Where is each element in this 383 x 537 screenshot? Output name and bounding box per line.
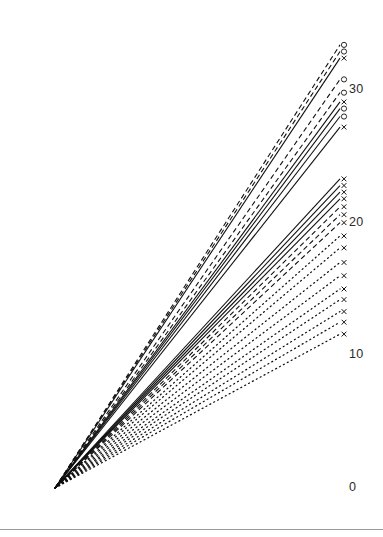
series-endpoint-x-marker bbox=[342, 260, 347, 265]
series-endpoint-x-marker bbox=[342, 183, 347, 188]
marker-layer bbox=[341, 42, 346, 336]
series-line bbox=[55, 186, 340, 488]
series-line bbox=[55, 199, 340, 488]
series-line bbox=[55, 58, 340, 488]
series-line bbox=[55, 289, 340, 488]
series-endpoint-x-marker bbox=[342, 176, 347, 181]
series-endpoint-x-marker bbox=[342, 234, 347, 239]
series-endpoint-x-marker bbox=[342, 309, 347, 314]
series-endpoint-x-marker bbox=[342, 332, 347, 337]
series-line bbox=[55, 45, 340, 488]
series-line bbox=[55, 215, 340, 488]
chart-root: 30 20 10 0 bbox=[0, 0, 383, 537]
series-endpoint-circle-marker bbox=[341, 90, 346, 95]
series-endpoint-x-marker bbox=[342, 196, 347, 201]
y-axis-tick-label-0: 0 bbox=[349, 480, 356, 494]
series-line bbox=[55, 179, 340, 488]
series-line bbox=[55, 192, 340, 488]
series-endpoint-x-marker bbox=[342, 100, 347, 105]
series-line bbox=[55, 93, 340, 488]
y-axis-tick-label-10: 10 bbox=[349, 347, 364, 361]
series-endpoint-circle-marker bbox=[341, 114, 346, 119]
series-endpoint-x-marker bbox=[342, 220, 347, 225]
series-endpoint-x-marker bbox=[342, 320, 347, 325]
bottom-divider bbox=[0, 529, 383, 530]
series-endpoint-x-marker bbox=[342, 190, 347, 195]
series-line bbox=[55, 102, 340, 488]
series-endpoint-x-marker bbox=[342, 56, 347, 61]
y-axis-tick-label-30: 30 bbox=[349, 82, 364, 96]
series-line bbox=[55, 109, 340, 488]
series-line bbox=[55, 300, 340, 488]
line-chart-plot bbox=[0, 0, 383, 537]
series-endpoint-x-marker bbox=[342, 125, 347, 130]
series-line bbox=[55, 334, 340, 488]
series-line bbox=[55, 312, 340, 488]
series-line bbox=[55, 223, 340, 488]
series-endpoint-circle-marker bbox=[341, 77, 346, 82]
series-endpoint-x-marker bbox=[342, 245, 347, 250]
series-line bbox=[55, 207, 340, 488]
series-endpoint-circle-marker bbox=[341, 106, 346, 111]
series-endpoint-x-marker bbox=[342, 273, 347, 278]
series-endpoint-circle-marker bbox=[341, 49, 346, 54]
series-endpoint-x-marker bbox=[342, 287, 347, 292]
series-endpoint-circle-marker bbox=[341, 42, 346, 47]
series-endpoint-x-marker bbox=[342, 297, 347, 302]
y-axis-tick-label-20: 20 bbox=[349, 215, 364, 229]
series-endpoint-x-marker bbox=[342, 212, 347, 217]
series-line bbox=[55, 262, 340, 488]
series-layer bbox=[55, 45, 340, 488]
series-endpoint-x-marker bbox=[342, 204, 347, 209]
series-line bbox=[55, 117, 340, 488]
